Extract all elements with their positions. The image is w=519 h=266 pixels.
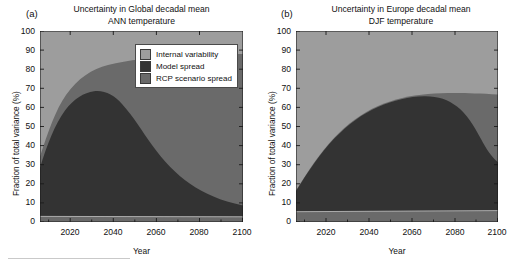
panel-b-ytick-60: 60 [267,103,291,112]
legend-label-model-spread: Model spread [156,62,204,71]
panel-b-ytick-70: 70 [267,84,291,93]
panel-b: (b) Uncertainty in Europe decadal mean D… [259,0,519,266]
panel-b-x-axis-label: Year [296,246,498,256]
panel-b-ytick-100: 100 [267,27,291,36]
panel-a-legend: Internal variability Model spread RCP sc… [135,44,238,88]
panel-a-ytick-20: 20 [11,179,35,188]
panel-a-xtick-2060: 2060 [139,228,173,237]
legend-item-model-spread: Model spread [140,60,232,72]
panel-a-xtick-2020: 2020 [53,228,87,237]
legend-swatch-internal-variability-icon [140,49,151,60]
legend-item-rcp-scenario-spread: RCP scenario spread [140,72,232,84]
legend-label-rcp-scenario-spread: RCP scenario spread [156,74,232,83]
panel-b-ytick-0: 0 [267,217,291,226]
panel-b-plot-svg [296,31,498,222]
panel-b-ytick-50: 50 [267,122,291,131]
panel-a-ytick-90: 90 [11,46,35,55]
panel-b-xtick-2040: 2040 [352,228,386,237]
panel-b-ytick-90: 90 [267,46,291,55]
panel-a-ytick-40: 40 [11,141,35,150]
panel-a-ytick-50: 50 [11,122,35,131]
panel-b-xtick-2080: 2080 [438,228,472,237]
panel-a-xtick-2040: 2040 [96,228,130,237]
panel-a-ytick-0: 0 [11,217,35,226]
panel-a-title-line1: Uncertainty in Global decadal mean [73,4,209,14]
legend-swatch-rcp-scenario-spread-icon [140,73,151,84]
legend-item-internal-variability: Internal variability [140,48,232,60]
panel-b-ytick-30: 30 [267,160,291,169]
panel-b-title-line1: Uncertainty in Europe decadal mean [331,4,470,14]
panel-a-xtick-2100: 2100 [225,228,259,237]
panel-b-ytick-20: 20 [267,179,291,188]
panel-a-ytick-80: 80 [11,65,35,74]
panel-a-title-line2: ANN temperature [30,16,253,28]
panel-a-x-axis-label: Year [40,246,243,256]
panel-b-title: Uncertainty in Europe decadal mean DJF t… [289,4,513,27]
panel-b-xtick-2060: 2060 [395,228,429,237]
panel-b-plot-area [296,31,498,222]
panel-b-xtick-2020: 2020 [309,228,343,237]
panel-b-title-line2: DJF temperature [289,16,513,28]
panel-a-ytick-60: 60 [11,103,35,112]
legend-label-internal-variability: Internal variability [156,50,218,59]
panel-b-ytick-80: 80 [267,65,291,74]
panel-a: (a) Uncertainty in Global decadal mean A… [0,0,259,266]
legend-swatch-model-spread-icon [140,61,151,72]
panel-a-xtick-2080: 2080 [182,228,216,237]
footer-divider-rule [8,258,130,259]
panel-a-ytick-10: 10 [11,198,35,207]
panel-a-ytick-100: 100 [11,27,35,36]
figure-container: (a) Uncertainty in Global decadal mean A… [0,0,519,266]
panel-b-ytick-10: 10 [267,198,291,207]
panel-a-ytick-30: 30 [11,160,35,169]
panel-a-title: Uncertainty in Global decadal mean ANN t… [30,4,253,27]
panel-b-xtick-2100: 2100 [480,228,514,237]
panel-b-ytick-40: 40 [267,141,291,150]
panel-a-ytick-70: 70 [11,84,35,93]
